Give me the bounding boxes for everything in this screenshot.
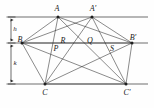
segment-B-C: [22, 43, 45, 84]
geometry-diagram: [0, 0, 154, 108]
point-label-R: R: [61, 37, 66, 45]
figure-canvas: AA'BB'CC'PRQShk: [0, 0, 154, 108]
vertex-label-B: B: [18, 36, 23, 44]
parallel-guide-lines: [8, 17, 148, 84]
vertex-label-Cp: C': [123, 89, 130, 97]
vertex-dot-C: [44, 83, 47, 86]
point-label-P: P: [54, 45, 59, 53]
vertex-dot-Ap: [91, 16, 94, 19]
point-label-Q: Q: [87, 37, 93, 45]
vertex-label-Ap: A': [90, 5, 97, 13]
vertex-label-Bp: B': [130, 34, 137, 42]
dimension-label-k: k: [13, 60, 16, 67]
segment-A-B: [22, 17, 58, 43]
segment-A'-B': [92, 17, 132, 43]
point-label-S: S: [110, 45, 114, 53]
segment-B'-C': [126, 43, 132, 84]
vertex-dot-A: [57, 16, 60, 19]
vertex-label-C: C: [42, 89, 47, 97]
segment-A'-C': [92, 17, 126, 84]
dimension-label-h: h: [13, 26, 17, 33]
triangle-edges: [22, 17, 132, 84]
vertex-dot-Cp: [125, 83, 128, 86]
vertex-label-A: A: [55, 5, 60, 13]
segment-A-B': [58, 17, 132, 43]
